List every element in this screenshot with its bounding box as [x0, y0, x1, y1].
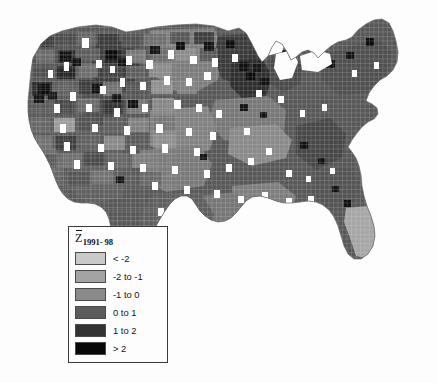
legend-swatch-0-to-1: [75, 306, 106, 319]
legend-row: -1 to 0: [75, 285, 167, 303]
choropleth-map-figure: [0, 0, 437, 383]
legend-title-subscript: 1991- 98: [83, 237, 113, 247]
legend-swatch-1-to-2: [75, 324, 106, 337]
legend-label-1-to-2: 1 to 2: [113, 325, 136, 336]
legend-label-minus1-to-0: -1 to 0: [113, 289, 140, 300]
legend-swatch-minus2-to-minus1: [75, 270, 106, 283]
legend-label-lt-minus2: < -2: [113, 253, 129, 264]
us-county-choropleth-svg: [0, 0, 437, 383]
legend-row: 1 to 2: [75, 321, 167, 339]
legend-swatch-minus1-to-0: [75, 288, 106, 301]
legend-row: > 2: [75, 339, 167, 357]
figure-page: Z1991- 98 < -2 -2 to -1 -1 to 0 0 to 1 1…: [0, 0, 437, 383]
legend-label-0-to-1: 0 to 1: [113, 307, 136, 318]
legend-title: Z1991- 98: [75, 232, 167, 249]
legend-label-minus2-to-minus1: -2 to -1: [113, 271, 143, 282]
legend-swatch-gt-2: [75, 342, 106, 355]
legend-row: < -2: [75, 249, 167, 267]
legend-row: 0 to 1: [75, 303, 167, 321]
map-legend: Z1991- 98 < -2 -2 to -1 -1 to 0 0 to 1 1…: [68, 226, 168, 363]
legend-swatch-lt-minus2: [75, 252, 106, 265]
legend-row: -2 to -1: [75, 267, 167, 285]
legend-label-gt-2: > 2: [113, 343, 126, 354]
legend-title-symbol: Z: [75, 231, 83, 245]
